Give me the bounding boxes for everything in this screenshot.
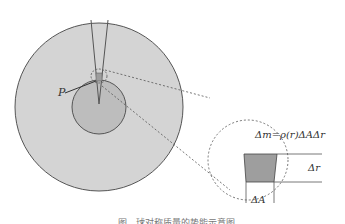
mass-formula-label: Δm=ρ(r)ΔAΔr [255,129,325,140]
point-p-label: P [58,86,65,99]
magnified-element [244,154,277,182]
diagram-canvas [0,0,345,224]
inner-sphere [72,80,126,134]
delta-r-label: Δr [308,162,320,173]
delta-a-label: ΔA [251,194,265,205]
volume-element [96,73,102,81]
figure-caption: 图 . 球对称质量的势能示意图 [118,216,235,224]
